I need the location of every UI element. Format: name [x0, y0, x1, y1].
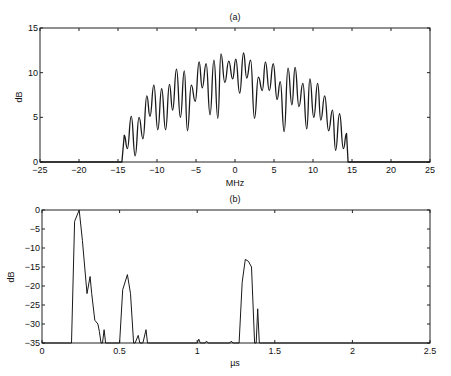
x-tick-label: 2.5: [424, 346, 437, 356]
x-tick-label: 5: [271, 165, 276, 175]
x-tick-label: 1: [195, 346, 200, 356]
x-tick-label: 0.5: [113, 346, 126, 356]
panel-b-ylabel: dB: [6, 271, 16, 282]
y-tick-label: 15: [28, 23, 38, 33]
x-tick-label: 10: [308, 165, 318, 175]
x-tick-label: 0: [39, 346, 44, 356]
x-tick-label: 25: [425, 165, 435, 175]
x-tick-label: −10: [149, 165, 164, 175]
panel-a-frame: [40, 28, 430, 162]
panel-b-curve: [42, 210, 430, 343]
y-tick-label: 0: [35, 205, 40, 215]
panel-a-xlabel: MHz: [226, 178, 245, 188]
panel-b-ticks: 00.511.522.50−5−10−15−20−25−30−35: [25, 205, 437, 356]
panel-b-xlabel: µs: [230, 358, 240, 368]
panel-a-curve: [40, 53, 430, 162]
y-tick-label: −10: [25, 243, 40, 253]
y-tick-label: −15: [25, 262, 40, 272]
y-tick-label: −5: [30, 224, 40, 234]
y-tick-label: −35: [25, 338, 40, 348]
x-tick-label: −15: [110, 165, 125, 175]
x-tick-label: 0: [232, 165, 237, 175]
x-tick-label: 15: [347, 165, 357, 175]
y-tick-label: 10: [28, 68, 38, 78]
panel-b-title: (b): [230, 194, 241, 204]
panel-b: (b) 00.511.522.50−5−10−15−20−25−30−35 µs…: [6, 194, 436, 368]
x-tick-label: −5: [191, 165, 201, 175]
x-tick-label: 2: [350, 346, 355, 356]
y-tick-label: 0: [33, 157, 38, 167]
panel-a: (a) −25−20−15−10−50510152025051015 MHz d…: [14, 12, 435, 188]
chart-figure: (a) −25−20−15−10−50510152025051015 MHz d…: [0, 0, 451, 376]
y-tick-label: −30: [25, 319, 40, 329]
y-tick-label: −25: [25, 300, 40, 310]
panel-b-frame: [42, 210, 430, 343]
panel-a-title: (a): [230, 12, 241, 22]
panel-a-ylabel: dB: [14, 91, 24, 102]
panel-a-ticks: −25−20−15−10−50510152025051015: [28, 23, 435, 175]
y-tick-label: −20: [25, 281, 40, 291]
y-tick-label: 5: [33, 112, 38, 122]
x-tick-label: −20: [71, 165, 86, 175]
x-tick-label: 1.5: [269, 346, 282, 356]
x-tick-label: 20: [386, 165, 396, 175]
